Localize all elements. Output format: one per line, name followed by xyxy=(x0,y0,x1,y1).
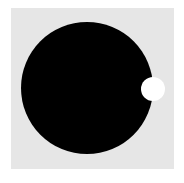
small-white-circle xyxy=(141,77,165,101)
canvas xyxy=(0,0,184,183)
large-black-circle xyxy=(21,22,153,154)
